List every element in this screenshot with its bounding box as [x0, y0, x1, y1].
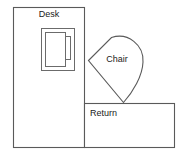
return-label: Return: [90, 108, 117, 118]
computer-tower-rect: [66, 37, 71, 60]
chair-label: Chair: [106, 54, 128, 64]
floorplan-canvas: Desk Chair Return: [0, 0, 181, 156]
computer-shape[interactable]: [42, 29, 75, 71]
computer-monitor-rect: [46, 33, 66, 67]
office-layout-diagram: Desk Chair Return: [0, 0, 181, 156]
desk-label: Desk: [39, 9, 60, 19]
chair-shape[interactable]: [89, 36, 144, 102]
